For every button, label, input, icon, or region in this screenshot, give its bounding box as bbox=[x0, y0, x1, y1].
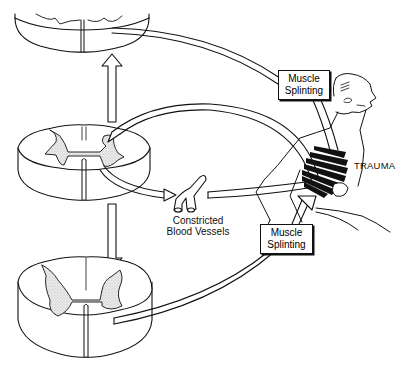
constricted-blood-vessels-label: Constricted Blood Vessels bbox=[160, 215, 236, 237]
pathway-lower-muscle-splinting-to-trauma bbox=[292, 196, 316, 224]
constricted-blood-vessels-line2: Blood Vessels bbox=[160, 226, 236, 237]
spinal-cord-upper bbox=[15, 14, 149, 52]
pain-cycle-diagram bbox=[0, 0, 404, 367]
muscle-splinting-upper-line1: Muscle bbox=[288, 73, 320, 85]
muscle-splinting-upper-line2: Splinting bbox=[285, 85, 323, 97]
pathway-muscle-splinting-to-chest bbox=[312, 98, 338, 150]
muscle-splinting-lower-line2: Splinting bbox=[267, 239, 305, 251]
muscle-splinting-upper-box: Muscle Splinting bbox=[278, 70, 330, 100]
constricted-blood-vessels-line1: Constricted bbox=[160, 215, 236, 226]
spinal-cord-lower bbox=[18, 257, 152, 357]
spinal-cord-middle bbox=[18, 125, 150, 200]
muscle-splinting-lower-line1: Muscle bbox=[271, 227, 303, 239]
trauma-label: TRAUMA bbox=[354, 161, 395, 171]
arrow-up-to-upper-cord bbox=[102, 54, 122, 122]
blood-vessels-icon bbox=[174, 176, 206, 212]
muscle-splinting-lower-box: Muscle Splinting bbox=[260, 224, 313, 254]
